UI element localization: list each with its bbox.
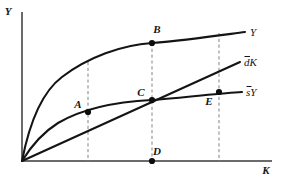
x-axis-label: K [261,164,270,176]
point-label-b: B [152,23,160,35]
point-label-d: D [152,145,161,157]
point-e [216,89,222,95]
depreciation-k-symbol: K [249,56,258,68]
output-curve-label: Y [250,26,258,38]
point-b [149,40,155,46]
point-label-c: C [137,86,145,98]
point-a [85,109,91,115]
saving-curve-label: sY [246,86,258,98]
depreciation-line [22,62,240,161]
y-axis-label: Y [5,5,13,17]
curve-labels-group: Y dK sY [244,26,258,98]
point-label-a: A [73,98,81,110]
solow-model-figure: A B C D E Y K Y dK sY [0,0,282,177]
point-c [149,97,155,103]
depreciation-line-label: dK [244,56,258,68]
saving-y-symbol: Y [250,86,258,98]
point-label-e: E [204,95,212,107]
point-d [149,158,155,164]
